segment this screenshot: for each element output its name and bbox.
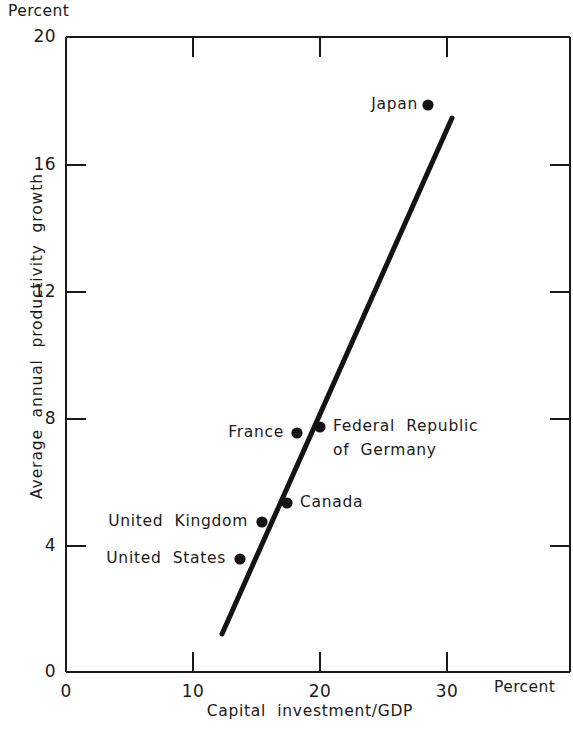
x-axis-ticks <box>193 652 447 672</box>
data-point-united-kingdom <box>256 516 267 527</box>
data-label-france: France <box>170 422 284 442</box>
x-tick-label-30: 30 <box>419 681 475 701</box>
top-edge-ticks <box>193 37 447 57</box>
data-point-germany <box>314 421 325 432</box>
right-edge-ticks <box>550 165 570 546</box>
plot-frame <box>66 37 570 672</box>
y-axis-title: Average annual productivity growth <box>28 199 46 499</box>
data-point-japan <box>422 99 433 110</box>
trend-line <box>222 118 452 634</box>
x-axis-title: Capital investment/GDP <box>150 702 470 720</box>
y-tick-label-20: 20 <box>14 26 56 46</box>
y-tick-label-0: 0 <box>14 661 56 681</box>
x-axis-unit-label: Percent <box>494 678 555 696</box>
x-tick-label-0: 0 <box>38 681 94 701</box>
y-tick-label-16: 16 <box>14 154 56 174</box>
y-axis-ticks <box>66 165 86 546</box>
data-label-united-kingdom: United Kingdom <box>80 511 248 531</box>
y-axis-unit-label: Percent <box>8 2 69 20</box>
data-point-united-states <box>234 553 245 564</box>
data-label-canada: Canada <box>300 492 363 512</box>
data-point-canada <box>281 497 292 508</box>
data-label-germany-line1: Federal Republic <box>333 416 478 436</box>
chart-canvas <box>0 0 573 733</box>
data-label-germany-line2: of Germany <box>333 440 437 460</box>
x-tick-label-20: 20 <box>292 681 348 701</box>
data-label-japan: Japan <box>300 94 418 114</box>
data-point-france <box>291 427 302 438</box>
data-label-united-states: United States <box>80 548 226 568</box>
scatter-chart-figure: Percent Percent 20 16 12 8 4 0 0 10 20 3… <box>0 0 573 733</box>
x-tick-label-10: 10 <box>165 681 221 701</box>
y-tick-label-4: 4 <box>14 535 56 555</box>
